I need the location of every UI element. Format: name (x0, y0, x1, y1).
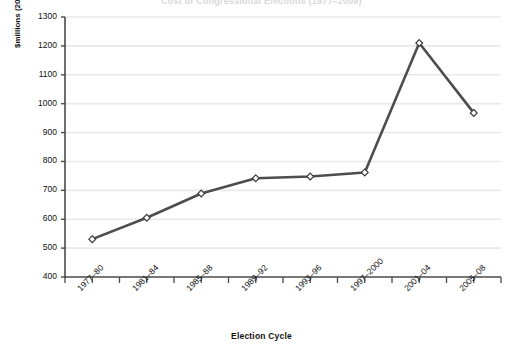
y-tick-label: 700 (23, 185, 57, 194)
y-axis-title: $millions (2006) (13, 0, 22, 88)
y-tick-label: 1000 (23, 99, 57, 108)
y-tick-label: 1100 (23, 70, 57, 79)
y-tick-label: 400 (23, 272, 57, 281)
y-tick-label: 600 (23, 214, 57, 223)
y-tick-label: 1200 (23, 41, 57, 50)
y-tick-label: 900 (23, 128, 57, 137)
chart-title-cropped: Cost of Congressional Elections (1977–20… (0, 0, 523, 6)
axes (61, 17, 501, 283)
y-tick-label: 800 (23, 156, 57, 165)
series-line (92, 43, 474, 239)
chart-figure: Cost of Congressional Elections (1977–20… (0, 0, 523, 350)
x-axis-title: Election Cycle (0, 331, 523, 341)
gridlines (65, 17, 501, 248)
series-markers (89, 40, 477, 243)
y-tick-label: 500 (23, 243, 57, 252)
y-tick-label: 1300 (23, 12, 57, 21)
plot-canvas (0, 0, 523, 350)
